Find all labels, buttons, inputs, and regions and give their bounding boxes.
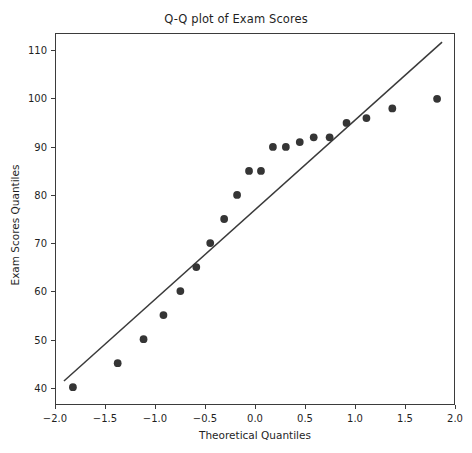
data-point xyxy=(257,167,265,175)
scatter-points xyxy=(69,95,441,391)
data-point xyxy=(233,191,241,199)
x-tick-mark xyxy=(55,405,56,409)
x-tick-label: −2.0 xyxy=(25,413,85,424)
x-axis-label: Theoretical Quantiles xyxy=(55,429,455,441)
x-tick-mark xyxy=(405,405,406,409)
x-tick-label: 0.0 xyxy=(225,413,285,424)
x-tick-label: −0.5 xyxy=(175,413,235,424)
x-tick-mark xyxy=(255,405,256,409)
data-point xyxy=(282,143,290,151)
data-point xyxy=(176,287,184,295)
data-point xyxy=(245,167,253,175)
data-point xyxy=(160,311,168,319)
x-tick-label: −1.5 xyxy=(75,413,135,424)
x-tick-mark xyxy=(205,405,206,409)
reference-line-segment xyxy=(64,42,442,381)
data-point xyxy=(140,335,148,343)
data-point xyxy=(269,143,277,151)
x-tick-label: 1.5 xyxy=(375,413,435,424)
x-tick-mark xyxy=(105,405,106,409)
y-tick-label: 100 xyxy=(7,93,47,104)
data-point xyxy=(206,239,214,247)
x-tick-mark xyxy=(155,405,156,409)
data-point xyxy=(343,119,351,127)
data-point xyxy=(310,133,318,141)
y-tick-label: 40 xyxy=(7,383,47,394)
page-title: Q-Q plot of Exam Scores xyxy=(0,12,472,26)
y-axis-label: Exam Scores Quantiles xyxy=(9,125,21,325)
plot-canvas xyxy=(56,34,454,404)
x-tick-label: 1.0 xyxy=(325,413,385,424)
data-point xyxy=(220,215,228,223)
data-point xyxy=(192,263,200,271)
figure: Q-Q plot of Exam Scores 4050607080901001… xyxy=(0,0,472,453)
data-point xyxy=(363,114,371,122)
y-tick-label: 110 xyxy=(7,44,47,55)
data-point xyxy=(296,138,304,146)
data-point xyxy=(433,95,441,103)
plot-area xyxy=(55,33,455,405)
data-point xyxy=(114,359,122,367)
data-point xyxy=(388,105,396,113)
data-point xyxy=(69,383,77,391)
x-tick-label: −1.0 xyxy=(125,413,185,424)
x-tick-mark xyxy=(355,405,356,409)
reference-line xyxy=(64,42,442,381)
data-point xyxy=(326,133,334,141)
x-tick-label: 0.5 xyxy=(275,413,335,424)
x-tick-mark xyxy=(305,405,306,409)
x-tick-mark xyxy=(455,405,456,409)
x-tick-label: 2.0 xyxy=(425,413,472,424)
y-tick-label: 50 xyxy=(7,334,47,345)
